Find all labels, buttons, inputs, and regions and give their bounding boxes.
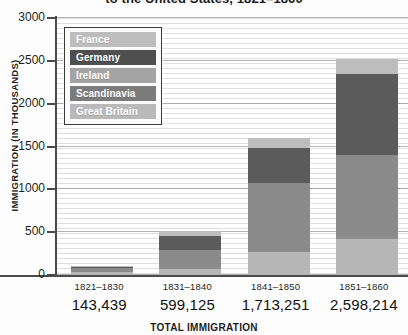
legend-item-france: France [70,32,156,47]
y-tick-1500 [47,146,56,148]
y-tick-1000 [47,188,56,190]
x-label-group-1: 1831–1840599,125 [143,281,231,313]
y-tick-2500 [47,60,56,62]
bar-segment-france [248,138,310,149]
x-label-group-0: 1821–1830143,439 [55,281,143,313]
bar-1851–1860 [336,59,398,275]
legend-label: France [76,35,109,45]
x-period-label: 1821–1830 [55,281,143,292]
immigration-stacked-bar-chart: to the United States, 1821–1860 05001000… [0,0,408,335]
bar-segment-ireland [159,250,221,268]
y-tick-label-1500: 1500 [18,139,45,153]
bar-segment-germany [159,236,221,250]
x-period-label: 1851–1860 [320,281,408,292]
y-axis-title: IMMIGRATION (IN THOUSANDS) [9,41,20,231]
bar-segment-ireland [248,183,310,250]
x-period-label: 1831–1840 [143,281,231,292]
y-tick-3000 [47,17,56,19]
legend-item-great-britain: Great Britain [70,104,156,119]
legend-item-scandinavia: Scandinavia [70,86,156,101]
y-tick-label-2500: 2500 [18,53,45,67]
chart-legend: FranceGermanyIrelandScandinaviaGreat Bri… [64,27,162,125]
y-tick-label-3000: 3000 [18,10,45,24]
gridline-3000 [55,17,408,18]
x-total-value: 1,713,251 [232,296,320,313]
chart-title: to the United States, 1821–1860 [0,0,408,6]
legend-label: Scandinavia [76,89,135,99]
y-tick-label-500: 500 [25,224,45,238]
x-label-group-3: 1851–18602,598,214 [320,281,408,313]
y-tick-label-2000: 2000 [18,96,45,110]
x-label-group-2: 1841–18501,713,251 [232,281,320,313]
x-total-value: 2,598,214 [320,296,408,313]
legend-label: Ireland [76,71,110,81]
x-total-value: 143,439 [55,296,143,313]
bar-1841–1850 [248,138,310,275]
x-period-label: 1841–1850 [232,281,320,292]
y-tick-label-0: 0 [38,267,45,281]
y-tick-500 [47,231,56,233]
x-axis-title: TOTAL IMMIGRATION [0,322,408,333]
legend-item-germany: Germany [70,50,156,65]
y-tick-2000 [47,103,56,105]
bar-segment-france [336,59,398,74]
bar-1831–1840 [159,231,221,275]
bar-segment-great-britain [248,252,310,275]
bar-segment-ireland [336,155,398,236]
bar-segment-great-britain [336,239,398,275]
legend-label: Great Britain [76,107,138,117]
bar-1821–1830 [71,266,133,275]
x-total-value: 599,125 [143,296,231,313]
y-tick-label-1000: 1000 [18,181,45,195]
legend-item-ireland: Ireland [70,68,156,83]
bar-segment-germany [248,148,310,183]
bar-segment-germany [336,74,398,155]
y-tick-0 [47,274,56,276]
legend-label: Germany [76,53,120,63]
x-axis-line [0,275,408,277]
